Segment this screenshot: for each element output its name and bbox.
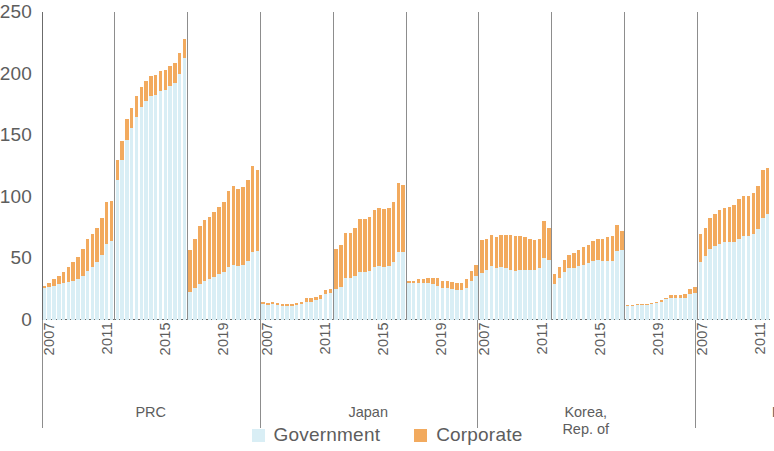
bar-segment-government xyxy=(130,128,133,320)
x-axis-tick-spacer: 2020 xyxy=(231,322,246,355)
x-axis-tick-spacer: 2017 xyxy=(405,322,420,355)
bar-segment-government xyxy=(450,289,453,320)
bar-segment-government xyxy=(314,300,317,320)
x-axis-tick-label: 2011 xyxy=(318,322,333,354)
bar-segment-corporate xyxy=(154,75,157,95)
bar-segment-government xyxy=(664,299,667,320)
bar-segment-government xyxy=(86,271,89,320)
bar-segment-government xyxy=(344,278,347,320)
legend-swatch-icon xyxy=(252,429,265,442)
bar-segment-government xyxy=(339,287,342,320)
bar-segment-corporate xyxy=(57,276,60,285)
x-axis-tick-spacer: 2008 xyxy=(274,322,289,355)
bar-group-prc xyxy=(42,12,114,320)
bar-segment-corporate xyxy=(140,87,143,107)
bar-segment-corporate xyxy=(81,249,84,276)
bar-segment-government xyxy=(441,288,444,320)
bar-segment-corporate xyxy=(232,186,235,265)
bar-segment-corporate xyxy=(125,119,128,140)
bar-segment-government xyxy=(305,302,308,320)
x-axis-tick-spacer: 2010 xyxy=(521,322,536,355)
x-axis-tick-label: 2011 xyxy=(100,322,115,354)
bar-segment-corporate xyxy=(572,253,575,268)
legend-item[interactable]: Corporate xyxy=(414,424,522,446)
bar-segment-corporate xyxy=(334,249,337,290)
bar-segment-government xyxy=(528,270,531,321)
bar-segment-corporate xyxy=(62,272,65,283)
bar-segment-government xyxy=(281,306,284,320)
bar-segment-corporate xyxy=(256,170,259,251)
x-axis-tick-spacer: 2021 xyxy=(463,322,478,355)
bar-segment-government xyxy=(620,250,623,320)
bar-segment-government xyxy=(241,265,244,320)
bar-segment-government xyxy=(542,258,545,320)
bar-group-viet-nam xyxy=(624,12,697,320)
bar-segment-government xyxy=(397,252,400,320)
bar-segment-corporate xyxy=(450,282,453,289)
bar-segment-government xyxy=(577,266,580,320)
bar-segment-corporate xyxy=(198,226,201,284)
bar-segment-government xyxy=(474,276,477,320)
x-axis-tick-spacer: 2013 xyxy=(129,322,144,355)
bar-segment-government xyxy=(159,91,162,320)
bar-segment-government xyxy=(251,252,254,320)
bar-segment-government xyxy=(149,96,152,320)
bar-segment-government xyxy=(377,266,380,320)
bar-group-asean-3 xyxy=(697,12,770,320)
bar-segment-corporate xyxy=(495,237,498,268)
bar-segment-corporate xyxy=(615,225,618,251)
chart-legend: GovernmentCorporate xyxy=(0,424,774,446)
bar-segment-corporate xyxy=(246,180,249,261)
bar-segment-corporate xyxy=(373,210,376,267)
bar-segment-corporate xyxy=(480,240,483,273)
bar-segment-corporate xyxy=(397,183,400,252)
bar-segment-corporate xyxy=(76,257,79,279)
x-axis-tick-spacer: 2018 xyxy=(202,322,217,355)
bar-segment-corporate xyxy=(168,66,171,86)
bar-segment-government xyxy=(422,283,425,320)
legend-item[interactable]: Government xyxy=(252,424,381,446)
bar-segment-government xyxy=(47,287,50,320)
bar-segment-corporate xyxy=(339,245,342,287)
bar-segment-government xyxy=(178,74,181,320)
x-axis-tick-spacer: 2014 xyxy=(361,322,376,355)
y-axis-tick: 100 xyxy=(0,186,32,208)
bar-segment-corporate xyxy=(173,63,176,84)
x-axis-tick-label: 2007 xyxy=(695,322,710,355)
bar-segment-government xyxy=(246,261,249,320)
bar-segment-government xyxy=(723,242,726,320)
bar-segment-corporate xyxy=(514,236,517,270)
bar-group-philippines xyxy=(406,12,479,320)
x-axis-tick-spacer: 2008 xyxy=(492,322,507,355)
bar-segment-corporate xyxy=(105,202,108,244)
bar-segment-government xyxy=(261,304,264,320)
bar-segment-corporate xyxy=(752,193,755,234)
bar-segment-government xyxy=(57,284,60,320)
x-axis-tick-spacer: 2012 xyxy=(767,322,774,355)
x-axis-tick-spacer: 2016 xyxy=(390,322,405,355)
bar-segment-corporate xyxy=(86,239,89,271)
x-axis-tick-spacer: 2010 xyxy=(738,322,753,355)
bar-group-thailand xyxy=(551,12,624,320)
bar-segment-government xyxy=(495,268,498,320)
bar-segment-government xyxy=(236,266,239,320)
bar-segment-government xyxy=(285,306,288,320)
bar-segment-government xyxy=(660,302,663,320)
bar-segment-government xyxy=(747,236,750,320)
x-axis-tick-spacer: 2009 xyxy=(289,322,304,355)
bar-segment-corporate xyxy=(149,76,152,96)
bar-segment-government xyxy=(91,267,94,320)
bar-segment-corporate xyxy=(95,228,98,262)
bar-segment-government xyxy=(567,268,570,320)
bar-segment-corporate xyxy=(518,236,521,269)
bar-segment-government xyxy=(387,266,390,320)
bar-segment-corporate xyxy=(470,271,473,281)
bar-segment-government xyxy=(650,304,653,320)
bar-segment-government xyxy=(436,286,439,320)
x-axis-tick-spacer: 2013 xyxy=(347,322,362,355)
x-axis-tick-label: 2007 xyxy=(42,322,57,355)
bar-segment-government xyxy=(290,306,293,320)
bar-segment-government xyxy=(412,283,415,320)
bar-segment-corporate xyxy=(382,209,385,267)
bar-segment-corporate xyxy=(509,235,512,269)
